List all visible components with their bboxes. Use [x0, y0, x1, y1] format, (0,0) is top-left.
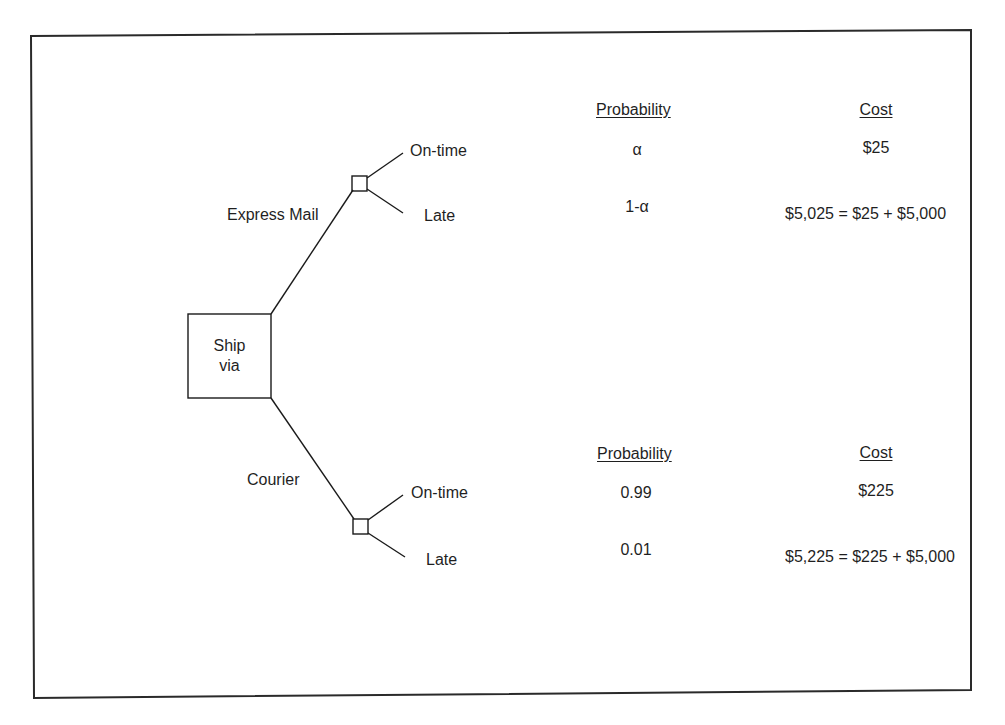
express-late-probability: 1-α [625, 198, 648, 216]
courier-branch-line [271, 398, 354, 519]
courier-late-cost-clip: $5,225 = $225 + $5,000 [785, 548, 969, 568]
root-label-line1: Ship [213, 336, 245, 356]
decision-tree-graphic [0, 0, 1005, 725]
express-ontime-line [367, 153, 403, 178]
courier-ontime-label: On-time [411, 484, 468, 502]
courier-ontime-probability: 0.99 [620, 484, 651, 502]
courier-label: Courier [247, 471, 299, 489]
courier-late-cost: $5,225 = $225 + $5,000 [785, 548, 955, 566]
courier-ontime-cost: $225 [858, 482, 894, 500]
courier-late-label: Late [426, 551, 457, 569]
courier-chance-node [353, 519, 368, 534]
courier-probability-header: Probability [597, 445, 672, 463]
express-probability-header: Probability [596, 101, 671, 119]
root-node-label: Ship via [188, 314, 271, 398]
frame-border [31, 30, 971, 698]
courier-late-line [368, 533, 405, 557]
courier-late-probability: 0.01 [620, 541, 651, 559]
express-late-line [367, 189, 403, 213]
express-mail-label: Express Mail [227, 206, 319, 224]
express-ontime-cost: $25 [863, 139, 890, 157]
express-late-label: Late [424, 207, 455, 225]
express-late-cost: $5,025 = $25 + $5,000 [785, 205, 946, 223]
express-ontime-probability: α [632, 141, 641, 159]
courier-ontime-line [368, 495, 403, 520]
express-mail-chance-node [352, 176, 367, 191]
root-label-line2: via [219, 356, 239, 376]
courier-cost-header: Cost [860, 444, 893, 462]
express-cost-header: Cost [860, 101, 893, 119]
express-ontime-label: On-time [410, 142, 467, 160]
